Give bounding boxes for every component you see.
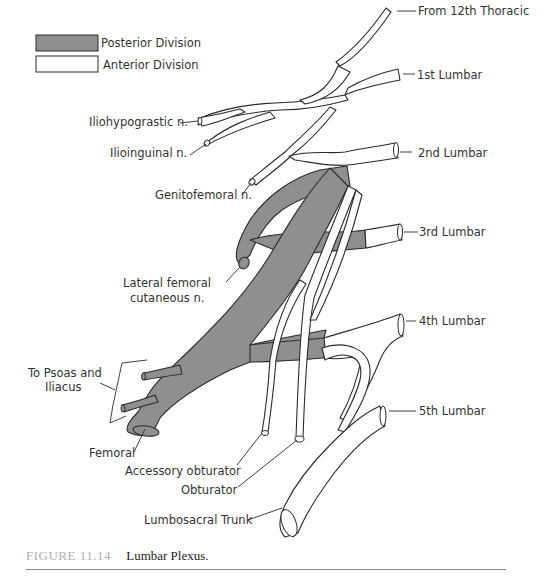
legend-label-anterior: Anterior Division xyxy=(103,58,199,72)
label-1st-lumbar: 1st Lumbar xyxy=(417,68,483,82)
label-3rd-lumbar: 3rd Lumbar xyxy=(419,225,486,239)
legend: Posterior Division Anterior Division xyxy=(36,35,201,72)
label-lumbosacral-trunk: Lumbosacral Trunk xyxy=(144,513,253,527)
figure-number: FIGURE 11.14 xyxy=(26,548,111,563)
label-accessory-obturator: Accessory obturator xyxy=(125,464,241,478)
label-psoas-1: To Psoas and xyxy=(27,366,102,380)
label-ilioinguinal: Ilioinguinal n. xyxy=(110,146,187,160)
label-obturator: Obturator xyxy=(181,483,237,497)
leader-lines xyxy=(100,11,418,520)
legend-label-posterior: Posterior Division xyxy=(101,36,201,50)
legend-swatch-anterior xyxy=(36,56,98,72)
label-genitofemoral: Genitofemoral n. xyxy=(155,188,252,202)
label-iliohypogastric: Iliohypograstic n. xyxy=(89,115,188,129)
label-lateral-femoral-1: Lateral femoral xyxy=(123,276,211,290)
upper-anterior-nerves xyxy=(198,8,400,186)
figure-title: Lumbar Plexus. xyxy=(126,548,208,563)
label-12th-thoracic: From 12th Thoracic xyxy=(418,4,529,18)
label-4th-lumbar: 4th Lumbar xyxy=(419,314,486,328)
label-5th-lumbar: 5th Lumbar xyxy=(419,404,486,418)
label-2nd-lumbar: 2nd Lumbar xyxy=(418,146,488,160)
label-femoral: Femoral xyxy=(89,446,135,460)
label-lateral-femoral-2: cutaneous n. xyxy=(130,291,204,305)
legend-swatch-posterior xyxy=(36,35,98,51)
label-psoas-2: Iliacus xyxy=(45,380,81,394)
lumbar-plexus-diagram: Posterior Division Anterior Division xyxy=(0,0,552,583)
figure-caption: FIGURE 11.14 Lumbar Plexus. xyxy=(26,548,506,570)
